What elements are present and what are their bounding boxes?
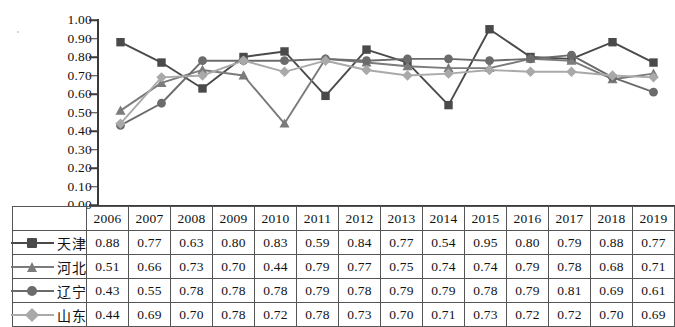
data-table: 2006200720082009201020112012201320142015… [12, 206, 675, 327]
plot-area: 1.000.900.800.700.600.500.400.300.200.10… [0, 0, 675, 206]
table-cell-value: 0.78 [297, 303, 339, 327]
table-row: 山东0.440.690.700.780.720.780.730.700.710.… [13, 303, 675, 327]
column-header-year: 2014 [423, 207, 465, 231]
y-tick-mark [89, 186, 97, 188]
legend-symbol-icon [27, 262, 37, 272]
table-cell-value: 0.71 [633, 255, 675, 279]
data-point-triangle [116, 105, 126, 114]
table-cell-value: 0.71 [423, 303, 465, 327]
legend-marker-circle-icon [11, 285, 54, 297]
legend-row-河北: 河北 [13, 255, 87, 279]
table-cell-value: 0.84 [339, 231, 381, 255]
data-point-square [198, 84, 206, 92]
table-row: 河北0.510.660.730.700.440.790.770.750.740.… [13, 255, 675, 279]
y-tick-mark [89, 167, 97, 169]
y-tick-mark [89, 149, 97, 151]
table-cell-value: 0.51 [87, 255, 129, 279]
table-cell-value: 0.78 [465, 279, 507, 303]
column-header-year: 2013 [381, 207, 423, 231]
table-cell-value: 0.81 [549, 279, 591, 303]
table-cell-value: 0.78 [339, 279, 381, 303]
y-tick-mark [89, 93, 97, 95]
data-table-body: 2006200720082009201020112012201320142015… [13, 207, 675, 327]
table-cell-value: 0.70 [381, 303, 423, 327]
data-point-square [157, 58, 165, 66]
column-header-year: 2010 [255, 207, 297, 231]
table-header-row: 2006200720082009201020112012201320142015… [13, 207, 675, 231]
table-cell-value: 0.78 [213, 279, 255, 303]
table-cell-value: 0.55 [129, 279, 171, 303]
table-corner-cell [13, 207, 87, 231]
column-header-year: 2018 [591, 207, 633, 231]
table-cell-value: 0.79 [507, 279, 549, 303]
y-tick-mark [89, 130, 97, 132]
series-label: 山东 [57, 305, 86, 325]
legend-symbol-icon [27, 238, 37, 248]
table-cell-value: 0.74 [423, 255, 465, 279]
table-cell-value: 0.44 [255, 255, 297, 279]
y-tick-mark [89, 112, 97, 114]
table-cell-value: 0.83 [255, 231, 297, 255]
series-triangle [116, 54, 659, 128]
data-point-circle [567, 51, 576, 60]
data-point-circle [649, 88, 658, 97]
table-cell-value: 0.78 [549, 255, 591, 279]
data-point-square [444, 101, 452, 109]
table-cell-value: 0.78 [255, 279, 297, 303]
data-point-diamond [566, 67, 576, 77]
column-header-year: 2019 [633, 207, 675, 231]
data-point-diamond [402, 70, 412, 80]
data-point-diamond [525, 67, 535, 77]
table-cell-value: 0.78 [213, 303, 255, 327]
column-header-year: 2017 [549, 207, 591, 231]
table-cell-value: 0.69 [129, 303, 171, 327]
legend-entry: 辽宁 [13, 279, 86, 302]
table-cell-value: 0.70 [171, 303, 213, 327]
column-header-year: 2016 [507, 207, 549, 231]
data-point-circle [198, 56, 207, 65]
legend-marker-diamond-icon [11, 309, 54, 321]
table-cell-value: 0.44 [87, 303, 129, 327]
table-cell-value: 0.69 [633, 303, 675, 327]
data-point-circle [403, 54, 412, 63]
column-header-year: 2007 [129, 207, 171, 231]
table-cell-value: 0.75 [381, 255, 423, 279]
legend-marker-square-icon [11, 237, 54, 249]
table-cell-value: 0.88 [87, 231, 129, 255]
table-row: 辽宁0.430.550.780.780.780.790.780.790.790.… [13, 279, 675, 303]
table-cell-value: 0.78 [171, 279, 213, 303]
data-point-square [608, 38, 616, 46]
table-cell-value: 0.63 [171, 231, 213, 255]
legend-symbol-icon [27, 286, 37, 296]
legend-entry: 天津 [13, 231, 86, 254]
data-table-wrapper: 2006200720082009201020112012201320142015… [12, 206, 675, 323]
data-point-square [485, 25, 493, 33]
table-cell-value: 0.80 [507, 231, 549, 255]
table-cell-value: 0.77 [633, 231, 675, 255]
legend-row-山东: 山东 [13, 303, 87, 327]
column-header-year: 2011 [297, 207, 339, 231]
table-cell-value: 0.73 [171, 255, 213, 279]
data-point-square [649, 58, 657, 66]
table-cell-value: 0.72 [255, 303, 297, 327]
table-cell-value: 0.74 [465, 255, 507, 279]
series-label: 辽宁 [57, 281, 86, 301]
table-cell-value: 0.69 [591, 279, 633, 303]
legend-row-辽宁: 辽宁 [13, 279, 87, 303]
table-cell-value: 0.79 [423, 279, 465, 303]
column-header-year: 2008 [171, 207, 213, 231]
table-cell-value: 0.72 [549, 303, 591, 327]
legend-row-天津: 天津 [13, 231, 87, 255]
table-cell-value: 0.79 [297, 279, 339, 303]
data-point-circle [526, 54, 535, 63]
table-row: 天津0.880.770.630.800.830.590.840.770.540.… [13, 231, 675, 255]
y-tick-mark [89, 19, 97, 21]
table-cell-value: 0.79 [297, 255, 339, 279]
data-point-square [116, 38, 124, 46]
legend-marker-triangle-icon [11, 261, 54, 273]
series-label: 河北 [57, 257, 86, 277]
data-point-square [362, 45, 370, 53]
table-cell-value: 0.88 [591, 231, 633, 255]
column-header-year: 2006 [87, 207, 129, 231]
